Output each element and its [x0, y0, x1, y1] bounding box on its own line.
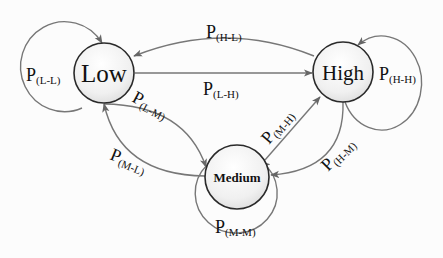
node-low: Low: [74, 43, 134, 103]
label-p-l-h: P(L-H): [203, 79, 239, 101]
node-medium: Medium: [205, 145, 269, 209]
state-transition-diagram: Low High Medium P(L-L) P(H-L) P(L-H) P(H…: [0, 0, 443, 258]
node-high: High: [313, 42, 373, 102]
label-p-h-h: P(H-H): [379, 64, 416, 86]
node-high-label: High: [322, 61, 365, 85]
node-medium-label: Medium: [214, 170, 261, 185]
node-low-label: Low: [81, 60, 127, 87]
label-p-l-l: P(L-L): [26, 65, 61, 87]
label-p-h-m: P(H-M): [317, 133, 360, 176]
label-p-l-m: P(L-M): [128, 87, 172, 124]
label-p-h-l: P(H-L): [206, 22, 242, 44]
diagram-svg: Low High Medium P(L-L) P(H-L) P(L-H) P(H…: [0, 0, 443, 258]
label-p-m-h: P(M-H): [257, 105, 299, 149]
label-p-m-m: P(M-M): [215, 217, 256, 239]
